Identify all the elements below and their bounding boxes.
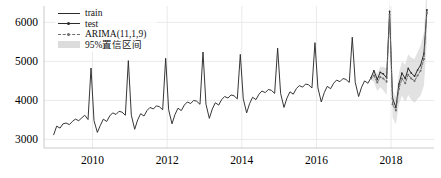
legend-item-train: train <box>57 8 154 19</box>
x-axis-tick-label: 2018 <box>368 154 414 166</box>
x-axis-tick-label: 2012 <box>144 154 190 166</box>
legend-label-train: train <box>85 8 102 18</box>
x-axis-tick-label: 2010 <box>70 154 116 166</box>
legend-label-confidence-band: 95%置信区间 <box>85 40 142 50</box>
legend-label-test: test <box>85 19 98 29</box>
legend-swatch-band-icon <box>57 40 81 50</box>
legend-swatch-train-icon <box>57 8 81 18</box>
legend-item-confidence-band: 95%置信区间 <box>57 40 154 51</box>
forecast-chart: 3000400050006000 20102012201420162018 tr… <box>0 0 441 178</box>
legend-item-arima: ARIMA(11,1,9) <box>57 29 154 40</box>
x-axis-tick-label: 2016 <box>293 154 339 166</box>
y-axis-tick-label: 3000 <box>0 133 38 145</box>
x-axis-tick-label: 2014 <box>219 154 265 166</box>
chart-legend: train test ARIMA(11,1,9) 95%置信区间 <box>55 6 157 52</box>
y-axis-tick-label: 5000 <box>0 55 38 67</box>
legend-swatch-arima-icon <box>57 29 81 39</box>
legend-swatch-test-icon <box>57 19 81 29</box>
y-axis-tick-label: 4000 <box>0 94 38 106</box>
legend-label-arima: ARIMA(11,1,9) <box>85 29 146 39</box>
y-axis-tick-label: 6000 <box>0 16 38 28</box>
legend-item-test: test <box>57 19 154 30</box>
